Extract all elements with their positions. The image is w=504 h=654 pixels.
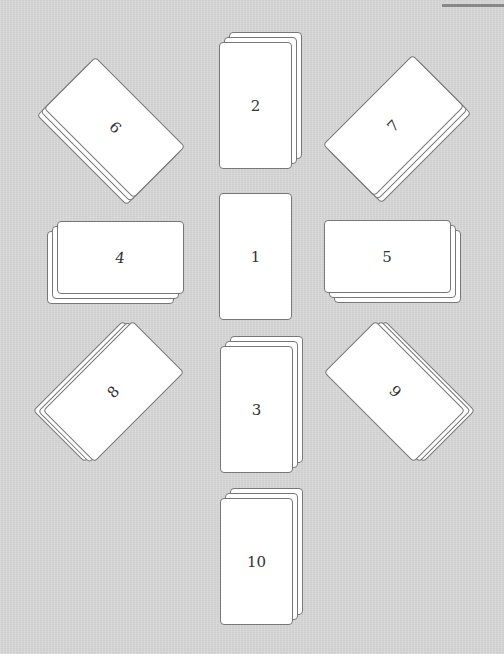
card-position-5[interactable]: 5 — [324, 220, 451, 293]
card-front: 5 — [324, 220, 451, 293]
card-position-1[interactable]: 1 — [219, 193, 292, 320]
card-front: 1 — [219, 193, 292, 320]
card-position-3[interactable]: 3 — [220, 346, 293, 473]
card-label: 6 — [105, 118, 124, 137]
card-position-10[interactable]: 10 — [220, 498, 293, 625]
card-label: 5 — [383, 247, 393, 265]
card-front: 3 — [220, 346, 293, 473]
card-label: 9 — [385, 382, 404, 401]
card-front: 10 — [220, 498, 293, 625]
card-label: 2 — [251, 97, 261, 115]
card-position-2[interactable]: 2 — [219, 42, 292, 169]
card-label: 10 — [247, 553, 266, 571]
card-label: 8 — [104, 382, 123, 401]
card-front: 4 — [57, 221, 184, 294]
card-label: 3 — [252, 401, 262, 419]
card-label: 7 — [384, 116, 403, 135]
card-label: 1 — [251, 248, 261, 266]
card-front: 2 — [219, 42, 292, 169]
card-position-4[interactable]: 4 — [57, 221, 184, 294]
card-label: 4 — [114, 248, 126, 266]
top-rule-divider — [442, 4, 504, 7]
